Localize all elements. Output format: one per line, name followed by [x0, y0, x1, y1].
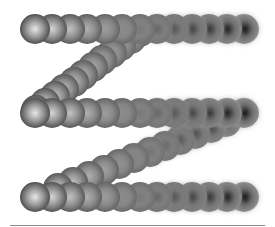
sphere-zigzag-graphic [0, 0, 275, 227]
baseline-divider [10, 225, 265, 226]
top-row-sphere [20, 14, 50, 44]
bottom-row-sphere [20, 182, 50, 212]
middle-row-sphere [20, 98, 50, 128]
